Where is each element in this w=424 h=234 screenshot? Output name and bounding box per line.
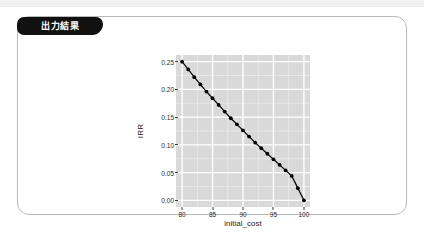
- y-axis-tick-label: 0.20: [144, 86, 174, 93]
- y-axis-tick-label: 0.00: [144, 197, 174, 204]
- y-axis-tick-mark: [175, 200, 178, 201]
- card-tab-output-result: 出力結果: [17, 17, 103, 35]
- x-axis-tick-mark: [182, 207, 183, 210]
- x-axis-tick-mark: [273, 207, 274, 210]
- y-axis-tick-label: 0.15: [144, 114, 174, 121]
- y-axis-tick-mark: [175, 172, 178, 173]
- y-axis-tick-mark: [175, 61, 178, 62]
- y-axis-label: IRR: [136, 55, 148, 207]
- x-axis-tick-mark: [303, 207, 304, 210]
- x-axis-label: initial_cost: [176, 219, 310, 228]
- x-axis-tick-mark: [243, 207, 244, 210]
- x-axis-tick-label: 85: [201, 211, 225, 218]
- top-band-divider: [0, 6, 424, 7]
- chart-figure: 0.000.050.100.150.200.25 80859095100 ini…: [128, 47, 328, 222]
- y-axis-tick-mark: [175, 117, 178, 118]
- y-axis-tick-label: 0.10: [144, 141, 174, 148]
- x-axis-tick-label: 100: [292, 211, 316, 218]
- x-axis-tick-label: 80: [170, 211, 194, 218]
- chart-plot-svg: [176, 55, 310, 207]
- y-axis-tick-mark: [175, 144, 178, 145]
- y-axis-tick-label: 0.05: [144, 169, 174, 176]
- output-result-card: 0.000.050.100.150.200.25 80859095100 ini…: [17, 16, 407, 215]
- x-axis-tick-mark: [212, 207, 213, 210]
- x-axis-tick-label: 90: [231, 211, 255, 218]
- x-axis-tick-label: 95: [261, 211, 285, 218]
- y-axis-tick-mark: [175, 89, 178, 90]
- y-axis-tick-label: 0.25: [144, 58, 174, 65]
- chart-panel: [176, 55, 310, 207]
